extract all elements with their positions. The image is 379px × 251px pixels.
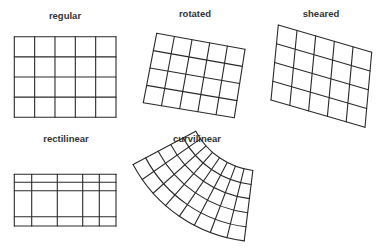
regular-label: regular <box>49 10 82 21</box>
rectilinear-label: rectilinear <box>43 133 89 144</box>
rotated-grid-panel: rotated <box>143 8 245 118</box>
regular-grid <box>14 37 116 118</box>
sheared-label: sheared <box>303 8 340 19</box>
curvilinear-grid-panel: curvilinear <box>133 131 253 241</box>
rectilinear-grid-panel: rectilinear <box>14 133 116 226</box>
curvilinear-grid <box>133 131 253 241</box>
rotated-grid <box>143 33 245 117</box>
sheared-grid <box>271 25 372 127</box>
regular-grid-panel: regular <box>14 10 116 117</box>
grid-types-diagram: regular rotated sheared rectilinear curv… <box>0 0 379 251</box>
sheared-grid-panel: sheared <box>271 8 372 127</box>
rectilinear-grid <box>14 174 116 226</box>
rotated-label: rotated <box>179 8 211 19</box>
